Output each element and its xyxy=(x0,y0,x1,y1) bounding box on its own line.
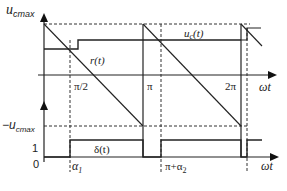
pi-label: π xyxy=(147,80,153,92)
ramp-3 xyxy=(241,24,262,46)
pi-alpha2-label: π+α2 xyxy=(165,160,187,175)
control-voltage-label: uc(t) xyxy=(184,27,204,41)
timing-diagram: ucmax r(t) uc(t) π/2 π 2π ωt −ucmax 1 0 … xyxy=(0,0,287,191)
y-axis-lower-arrow-icon xyxy=(40,101,48,110)
two-pi-label: 2π xyxy=(225,80,237,92)
y-axis-label: ucmax xyxy=(6,2,35,19)
x-axis-lower-label: ωt xyxy=(261,159,273,173)
reference-label: r(t) xyxy=(90,54,105,67)
level-one-label: 1 xyxy=(32,142,38,154)
x-axis-upper-arrow-icon xyxy=(268,71,277,79)
half-pi-label: π/2 xyxy=(74,80,88,92)
dashed-guides xyxy=(44,24,250,172)
x-axis-label: ωt xyxy=(259,80,271,94)
y-axis-arrow-icon xyxy=(40,13,48,22)
duty-signal xyxy=(44,140,262,157)
duty-label: δ(t) xyxy=(94,143,110,156)
origin-label: 0 xyxy=(33,158,39,170)
alpha1-label: α1 xyxy=(72,159,82,175)
neg-ucmax-label: −ucmax xyxy=(2,118,36,134)
